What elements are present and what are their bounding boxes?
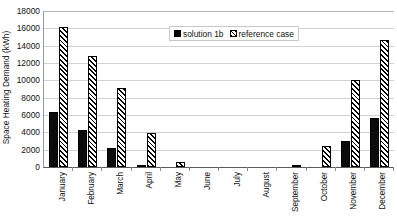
x-axis-tick: November [335, 170, 364, 224]
y-axis-tick: 12000 [17, 58, 40, 68]
solid-square-icon [174, 30, 181, 37]
bar-group [44, 11, 73, 167]
x-axis-tick-label: March [116, 172, 125, 195]
legend-label: reference case [239, 29, 294, 39]
bar [380, 40, 389, 167]
x-axis-tick-label: May [174, 172, 183, 187]
y-axis-tick: 0 [35, 162, 40, 172]
x-axis-tick: March [101, 170, 130, 224]
x-axis-tick: September [276, 170, 305, 224]
x-axis-tick-labels: JanuaryFebruaryMarchAprilMayJuneJulyAugu… [43, 170, 393, 224]
bar [107, 148, 116, 167]
x-axis-tick-label: September [291, 172, 300, 212]
x-axis-tick: April [131, 170, 160, 224]
bar [147, 133, 156, 167]
y-axis-title-label: Space Heating Demand (kWh) [3, 31, 12, 145]
legend-label: solution 1b [183, 29, 224, 39]
bar [176, 162, 185, 167]
bar-group [132, 11, 161, 167]
x-axis-tick-label: January [58, 172, 67, 201]
bar-group [73, 11, 102, 167]
x-axis-tick-label: November [349, 172, 358, 210]
bar-group [307, 11, 336, 167]
y-axis-tick: 2000 [21, 145, 40, 155]
y-axis-tick: 14000 [17, 41, 40, 51]
bar [88, 56, 97, 167]
bar [137, 165, 146, 167]
bar [341, 141, 350, 167]
bar [117, 88, 126, 167]
bar [78, 130, 87, 167]
x-axis-tick-label: October [320, 172, 329, 201]
x-axis-tick: May [160, 170, 189, 224]
y-axis-tick: 16000 [17, 23, 40, 33]
legend: solution 1breference case [169, 26, 299, 41]
bar [292, 165, 301, 167]
y-axis-tick: 10000 [17, 75, 40, 85]
bar [49, 112, 58, 167]
x-axis-tick: January [43, 170, 72, 224]
x-axis-tick-label: July [233, 172, 242, 187]
x-axis-tick: August [247, 170, 276, 224]
x-axis-tick: July [218, 170, 247, 224]
bar [322, 146, 331, 167]
space-heating-demand-bar-chart: Space Heating Demand (kWh) 1800016000140… [0, 0, 397, 224]
y-axis-tick: 4000 [21, 127, 40, 137]
hatched-square-icon [230, 30, 237, 37]
bar-group [102, 11, 131, 167]
x-axis-tick-label: April [145, 172, 154, 188]
bar [351, 80, 360, 167]
x-axis-tick: February [72, 170, 101, 224]
x-axis-tick-label: August [262, 172, 271, 198]
x-axis-tick-label: December [378, 172, 387, 210]
bar [59, 27, 68, 167]
y-axis-tick: 6000 [21, 110, 40, 120]
bar-group [336, 11, 365, 167]
x-axis-tick: October [306, 170, 335, 224]
y-axis-tick: 18000 [17, 6, 40, 16]
legend-entry: reference case [230, 29, 294, 39]
x-axis-tick: June [189, 170, 218, 224]
x-axis-tick-label: June [203, 172, 212, 190]
bar [370, 118, 379, 167]
x-axis-tick-label: February [87, 172, 96, 205]
y-axis-tick-labels: 1800016000140001200010000800060004000200… [12, 0, 42, 175]
x-axis-tick: December [364, 170, 393, 224]
y-axis-tick: 8000 [21, 93, 40, 103]
bar-group [365, 11, 394, 167]
legend-entry: solution 1b [174, 29, 224, 39]
